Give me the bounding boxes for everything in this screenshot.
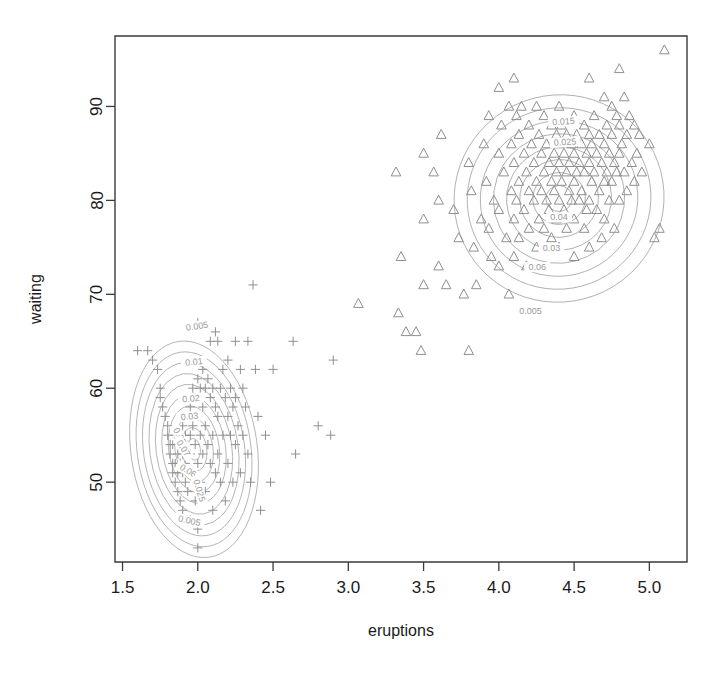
- data-point-triangle: [416, 346, 426, 355]
- data-point-triangle: [391, 167, 401, 176]
- data-point-triangle: [411, 327, 421, 336]
- data-point-triangle: [522, 167, 532, 176]
- data-point-plus: [314, 421, 323, 430]
- data-point-triangle: [512, 111, 522, 120]
- data-point-triangle: [509, 252, 519, 261]
- data-point-triangle: [615, 148, 625, 157]
- data-point-triangle: [419, 280, 429, 289]
- data-point-triangle: [464, 346, 474, 355]
- scatter-plot-figure: 0.0050.010.020.030.050.070.060.0250.0050…: [0, 0, 719, 679]
- data-point-plus: [236, 468, 245, 477]
- data-point-triangle: [554, 195, 564, 204]
- data-point-triangle: [487, 252, 497, 261]
- data-point-plus: [213, 337, 222, 346]
- density-contour-ring: [437, 77, 682, 320]
- x-tick-label: 4.5: [562, 578, 586, 597]
- data-point-plus: [246, 478, 255, 487]
- data-point-triangle: [489, 195, 499, 204]
- data-point-triangle: [610, 223, 620, 232]
- data-point-plus: [218, 365, 227, 374]
- data-point-plus: [223, 412, 232, 421]
- data-point-plus: [221, 496, 230, 505]
- data-point-plus: [261, 431, 270, 440]
- data-point-triangle: [630, 176, 640, 185]
- data-point-plus: [243, 337, 252, 346]
- data-point-triangle: [584, 158, 594, 167]
- data-point-plus: [198, 449, 207, 458]
- x-axis: 1.52.02.53.03.54.04.55.0: [111, 562, 661, 597]
- data-point-plus: [231, 337, 240, 346]
- data-point-triangle: [599, 139, 609, 148]
- contour-level-label: 0.01: [185, 356, 203, 368]
- data-point-triangle: [574, 158, 584, 167]
- data-point-triangle: [597, 158, 607, 167]
- data-point-triangle: [529, 158, 539, 167]
- data-point-triangle: [469, 242, 479, 251]
- data-point-triangle: [354, 299, 364, 308]
- data-point-triangle: [602, 167, 612, 176]
- data-point-triangle: [625, 111, 635, 120]
- contour-level-label: 0.025: [554, 136, 577, 148]
- data-point-plus: [226, 384, 235, 393]
- data-point-triangle: [537, 186, 547, 195]
- data-point-plus: [291, 449, 300, 458]
- data-point-triangle: [524, 186, 534, 195]
- data-point-triangle: [429, 167, 439, 176]
- data-point-triangle: [434, 261, 444, 270]
- data-point-plus: [253, 412, 262, 421]
- data-point-triangle: [645, 139, 655, 148]
- x-tick-label: 3.5: [412, 578, 436, 597]
- x-tick-label: 4.0: [487, 578, 511, 597]
- series-triangle: [354, 45, 670, 355]
- y-tick-label: 60: [88, 379, 107, 398]
- data-point-triangle: [539, 111, 549, 120]
- y-axis: 5060708090: [88, 97, 116, 492]
- density-contour-ring: [542, 181, 577, 216]
- data-point-triangle: [539, 223, 549, 232]
- contour-level-label: 0.06: [528, 262, 546, 272]
- contour-level-label: 0.005: [519, 306, 542, 316]
- data-point-plus: [251, 365, 260, 374]
- data-point-plus: [213, 449, 222, 458]
- data-point-plus: [208, 506, 217, 515]
- data-point-triangle: [584, 73, 594, 82]
- data-point-plus: [248, 280, 257, 289]
- data-point-triangle: [549, 148, 559, 157]
- data-point-triangle: [532, 101, 542, 110]
- x-tick-label: 3.0: [336, 578, 360, 597]
- data-point-triangle: [499, 167, 509, 176]
- contour-level-label: 0.02: [182, 393, 200, 404]
- data-point-triangle: [476, 214, 486, 223]
- data-point-plus: [206, 393, 215, 402]
- data-point-triangle: [449, 205, 459, 214]
- data-point-plus: [326, 431, 335, 440]
- data-point-plus: [161, 412, 170, 421]
- data-point-triangle: [472, 280, 482, 289]
- data-point-triangle: [514, 233, 524, 242]
- data-point-plus: [153, 365, 162, 374]
- data-point-triangle: [419, 148, 429, 157]
- data-point-triangle: [627, 158, 637, 167]
- data-point-triangle: [569, 176, 579, 185]
- contour-level-label: 0.03: [543, 243, 561, 253]
- data-point-plus: [183, 487, 192, 496]
- data-point-plus: [241, 402, 250, 411]
- data-point-plus: [196, 431, 205, 440]
- data-point-triangle: [464, 158, 474, 167]
- data-point-plus: [203, 440, 212, 449]
- data-point-triangle: [509, 73, 519, 82]
- x-tick-label: 5.0: [638, 578, 662, 597]
- x-tick-label: 2.5: [261, 578, 285, 597]
- data-point-triangle: [587, 176, 597, 185]
- data-point-triangle: [539, 167, 549, 176]
- x-tick-label: 2.0: [186, 578, 210, 597]
- data-point-triangle: [604, 195, 614, 204]
- data-point-triangle: [434, 195, 444, 204]
- data-point-triangle: [401, 327, 411, 336]
- contour-level-label: 0.03: [180, 411, 198, 422]
- data-point-triangle: [436, 129, 446, 138]
- data-point-triangle: [554, 158, 564, 167]
- data-point-triangle: [524, 120, 534, 129]
- data-point-plus: [269, 365, 278, 374]
- data-point-triangle: [396, 252, 406, 261]
